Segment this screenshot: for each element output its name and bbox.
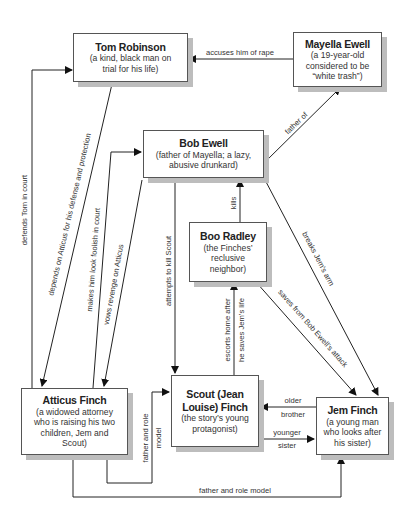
node-desc: (a kind, black man on trial for his life… bbox=[76, 53, 185, 74]
label-kills: kills bbox=[229, 196, 238, 209]
node-desc: (father of Mayella; a lazy, abusive drun… bbox=[146, 150, 261, 171]
node-scout-finch: Scout (Jean Louise) Finch (the story’s y… bbox=[171, 375, 259, 447]
node-desc: (a widowed attorney who is raising his t… bbox=[24, 407, 125, 449]
node-name: Bob Ewell bbox=[146, 137, 261, 150]
label-father-of: father of bbox=[283, 110, 310, 137]
label-role-scout-1: father and role bbox=[141, 414, 150, 463]
label-older-2: brother bbox=[281, 410, 306, 419]
label-accuses: accuses him of rape bbox=[206, 48, 274, 57]
node-name: Boo Radley bbox=[192, 230, 264, 243]
node-name: Tom Robinson bbox=[76, 41, 185, 54]
edge-breaks bbox=[264, 178, 378, 395]
node-name: Mayella Ewell bbox=[296, 38, 379, 51]
node-tom-robinson: Tom Robinson (a kind, black man on trial… bbox=[73, 33, 188, 82]
label-breaks: breaks Jem’s arm bbox=[300, 230, 336, 287]
edge-depends bbox=[42, 84, 112, 386]
label-role-scout-2: model bbox=[154, 427, 163, 448]
edge-father-of bbox=[264, 88, 340, 163]
label-older-1: older bbox=[285, 396, 302, 405]
node-desc: (a young man who looks after his sister) bbox=[319, 417, 386, 449]
node-desc: (a 19-year-old considered to be “white t… bbox=[296, 50, 379, 82]
node-name: Atticus Finch bbox=[24, 394, 125, 407]
label-depends: depends on Atticus for his defense and p… bbox=[46, 132, 92, 296]
label-younger-1: younger bbox=[273, 428, 301, 437]
node-desc: (the story’s young protagonist) bbox=[174, 413, 256, 434]
label-attempts: attempts to kill Scout bbox=[164, 235, 173, 306]
node-boo-radley: Boo Radley (the Finches’ reclusive neigh… bbox=[189, 222, 267, 282]
edge-saves bbox=[256, 282, 356, 395]
node-name: Jem Finch bbox=[319, 404, 386, 417]
node-desc: (the Finches’ reclusive neighbor) bbox=[192, 243, 264, 275]
label-escorts-1: escorts home after bbox=[223, 298, 232, 361]
label-revenge: vows revenge on Atticus bbox=[102, 243, 126, 325]
label-foolish: makes him look foolish in court bbox=[85, 207, 102, 312]
label-younger-2: sister bbox=[278, 441, 297, 450]
node-bob-ewell: Bob Ewell (father of Mayella; a lazy, ab… bbox=[143, 130, 264, 178]
label-defends: defends Tom in court bbox=[20, 174, 29, 245]
node-atticus-finch: Atticus Finch (a widowed attorney who is… bbox=[21, 388, 128, 455]
node-jem-finch: Jem Finch (a young man who looks after h… bbox=[316, 397, 389, 455]
node-name: Scout (Jean Louise) Finch bbox=[174, 388, 256, 413]
label-role-jem: father and role model bbox=[199, 486, 271, 495]
node-mayella-ewell: Mayella Ewell (a 19-year-old considered … bbox=[293, 32, 382, 87]
label-escorts-2: he saves Jem’s life bbox=[237, 298, 246, 362]
label-saves: saves from Bob Ewell’s attack bbox=[276, 288, 350, 370]
